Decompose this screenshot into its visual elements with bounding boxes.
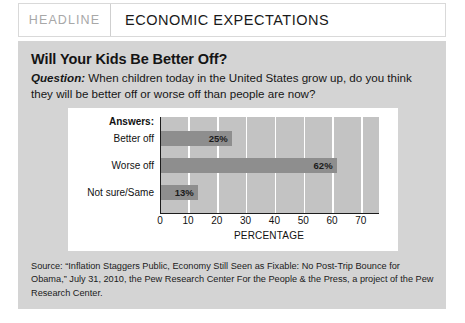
chart-plot-area: 25% 62% 13% <box>160 117 379 214</box>
bar-value-0: 25% <box>209 134 232 144</box>
xtick-70: 70 <box>355 216 366 226</box>
bar-value-1: 62% <box>314 161 337 171</box>
bar-value-2: 13% <box>175 188 198 198</box>
page-title: Will Your Kids Be Better Off? <box>31 50 433 68</box>
header-bar: HEADLINE ECONOMIC EXPECTATIONS <box>18 3 446 37</box>
header-kicker-label: HEADLINE <box>29 13 100 27</box>
chart-x-axis-title: PERCENTAGE <box>160 230 378 241</box>
chart-group-label: Answers: <box>109 117 154 127</box>
xtick-50: 50 <box>298 216 309 226</box>
gridline-70 <box>361 117 363 213</box>
xtick-40: 40 <box>269 216 280 226</box>
header-kicker: HEADLINE <box>19 4 111 36</box>
chart-card: Answers: Better off Worse off Not sure/S… <box>68 108 398 251</box>
chart-category-label-0: Better off <box>114 134 154 144</box>
question-text: Question: When children today in the Uni… <box>31 70 433 101</box>
xtick-60: 60 <box>326 216 337 226</box>
xtick-0: 0 <box>157 216 163 226</box>
content-panel: Will Your Kids Be Better Off? Question: … <box>18 41 446 309</box>
chart-category-label-1: Worse off <box>112 161 154 171</box>
header-title-label: ECONOMIC EXPECTATIONS <box>125 12 329 28</box>
question-body: When children today in the United States… <box>31 71 412 99</box>
source-citation: Source: “Inflation Staggers Public, Econ… <box>31 260 435 300</box>
page-root: HEADLINE ECONOMIC EXPECTATIONS Will Your… <box>0 0 465 323</box>
bar-not-sure-same: 13% <box>161 185 198 200</box>
xtick-30: 30 <box>240 216 251 226</box>
chart-category-labels: Answers: Better off Worse off Not sure/S… <box>68 117 158 213</box>
header-title: ECONOMIC EXPECTATIONS <box>111 4 329 36</box>
question-lead: Question: <box>31 71 85 84</box>
bar-chart: Answers: Better off Worse off Not sure/S… <box>68 108 398 251</box>
chart-x-axis-ticks: 0 10 20 30 40 50 60 70 <box>160 216 378 230</box>
bar-better-off: 25% <box>161 131 232 146</box>
xtick-10: 10 <box>182 216 193 226</box>
xtick-20: 20 <box>211 216 222 226</box>
chart-category-label-2: Not sure/Same <box>87 188 154 198</box>
bar-worse-off: 62% <box>161 158 337 173</box>
